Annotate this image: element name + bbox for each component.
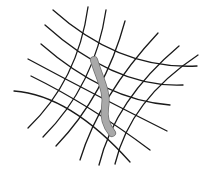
mesh-family-b-curve-5 — [99, 46, 179, 165]
mesh-family-b — [28, 7, 198, 165]
warped-mesh-diagram — [0, 0, 209, 172]
rod — [94, 60, 112, 133]
mesh-family-b-curve-3 — [56, 21, 125, 146]
mesh-family-b-curve-1 — [28, 7, 88, 128]
mesh-family-b-curve-6 — [115, 55, 198, 164]
